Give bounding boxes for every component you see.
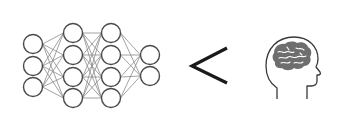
less-than-symbol: [192, 48, 227, 83]
network-node-layer-1: [24, 57, 43, 76]
network-node-layer-2: [64, 24, 83, 43]
network-edge: [121, 33, 141, 76]
network-node-layer-3: [102, 89, 121, 108]
network-edges: [43, 33, 141, 98]
network-node-layer-3: [102, 24, 121, 43]
network-node-layer-3: [102, 68, 121, 87]
network-node-layer-1: [24, 78, 43, 97]
network-node-layer-1: [24, 35, 43, 54]
human-brain-icon: [266, 37, 320, 99]
neural-network-icon: [24, 24, 160, 108]
network-edge: [121, 76, 141, 98]
network-node-layer-3: [102, 46, 121, 65]
network-edge: [121, 33, 141, 55]
network-node-layer-2: [64, 46, 83, 65]
network-node-layer-2: [64, 89, 83, 108]
network-node-layer-4: [141, 67, 160, 86]
comparison-diagram: [0, 0, 339, 130]
network-node-layer-4: [141, 46, 160, 65]
network-node-layer-2: [64, 68, 83, 87]
